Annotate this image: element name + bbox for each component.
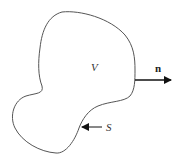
closed-surface-outline <box>12 12 135 153</box>
volume-label: V <box>91 61 99 73</box>
volume-surface-diagram: V n S <box>0 0 180 161</box>
surface-label: S <box>106 121 112 133</box>
normal-vector-label: n <box>155 62 161 74</box>
